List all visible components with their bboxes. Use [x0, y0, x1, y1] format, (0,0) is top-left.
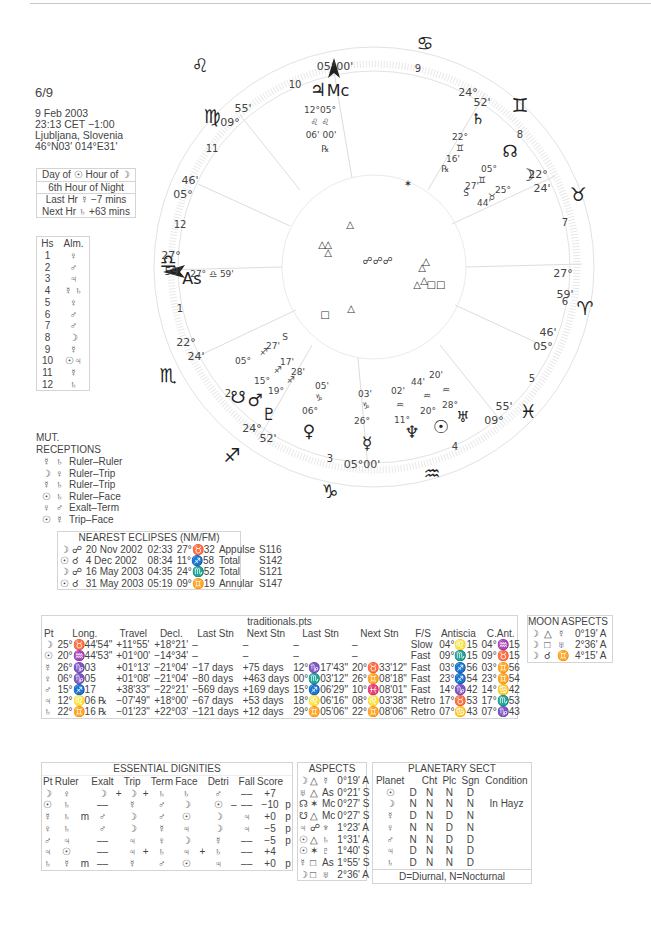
aspect-cell: ☌ — [542, 650, 555, 661]
table-row: 10☉♃ — [37, 355, 89, 367]
cusp-degree-label: 24' — [533, 182, 550, 195]
aspect-cell: 1°55' S — [336, 857, 370, 869]
aspect-glyph-icon: △ — [346, 219, 354, 230]
planet-labels: 12°05°♌ ♌06' 00'℞22°♊16'℞05°♊27'S25°♉44'… — [190, 105, 511, 426]
essential-dignities-box: ESSENTIAL DIGNITIES PtRulerExaltTripTerm… — [41, 762, 293, 871]
trad-cell: Fast — [409, 662, 437, 673]
zodiac-sign-icon: ♋ — [416, 32, 433, 54]
sect-cell: D — [440, 822, 459, 834]
table-row: ♅△As0°21' S — [298, 787, 370, 799]
trad-cell: −14°34' — [152, 650, 190, 661]
reception-row: ☿♄Ruler–Trip — [36, 479, 124, 491]
house-cell: 6 — [37, 309, 58, 321]
col-header: Last Stn — [190, 628, 240, 639]
aspect-cell: Mc — [321, 798, 336, 810]
aspect-cell: 0°19' A — [336, 775, 370, 787]
planet-position-label: 11° — [394, 415, 410, 425]
planet-position-label: 05° — [481, 164, 497, 174]
planet-position-label: 03' — [358, 389, 372, 399]
col-header: Antiscia — [437, 628, 479, 639]
col-header — [80, 776, 90, 788]
aspect-cell: ♊ — [555, 650, 573, 661]
dignity-cell: +0 — [256, 858, 284, 870]
planetary-sect-box: PLANETARY SECT PlanetChtPlcSgnCondition … — [372, 762, 532, 884]
eclipse-cell: ☽ ☍ — [58, 544, 84, 555]
planet-position-label: ♑ — [315, 393, 323, 403]
aspect-cell: ☉ — [298, 834, 309, 846]
reception-row: ☽♀Ruler–Trip — [36, 468, 124, 480]
house-cell: ☽ — [58, 332, 89, 344]
dignity-cell — [199, 788, 207, 800]
planet-position-label: ♒ — [423, 391, 431, 401]
trad-cell: – — [190, 639, 240, 650]
dignity-cell — [230, 835, 238, 847]
trad-cell: 20°♒44'53" — [55, 650, 114, 661]
trad-cell: 17°♉53 — [437, 695, 479, 706]
sect-cell: ♂ — [373, 834, 407, 846]
trad-cell: 00°♏03'12" — [291, 673, 350, 684]
planet-position-label: ℞ — [321, 144, 329, 154]
trad-cell: +12 days — [241, 706, 291, 717]
trad-cell: +75 days — [241, 662, 291, 673]
col-header: Decl. — [152, 628, 190, 639]
aspect-cell: ☿ — [298, 857, 309, 869]
eclipse-cell: 24°♏52 — [175, 566, 217, 577]
sect-cell — [482, 845, 531, 857]
planet-position-label: 06° — [302, 406, 318, 416]
mutual-receptions-box: MUT. RECEPTIONS ☿♄Ruler–Ruler☽♀Ruler–Tri… — [36, 432, 124, 525]
eclipse-cell: S147 — [257, 578, 284, 589]
dignity-cell: ♃ — [207, 858, 230, 870]
trad-cell: +169 days — [241, 684, 291, 695]
planet-position-label: 20° — [420, 406, 436, 416]
eclipse-cell: 11°♐58 — [175, 555, 217, 566]
reception-row: ☉☿Trip–Face — [36, 514, 124, 526]
dignity-cell: ♃ — [238, 811, 256, 823]
aspect-cell: ☽ — [298, 775, 309, 787]
planet-position-label: ℞ — [441, 164, 449, 174]
sect-cell: N — [440, 857, 459, 869]
zodiac-sign-icon: ♊ — [511, 94, 528, 116]
dignity-cell: ♃ — [174, 823, 198, 835]
table-row: ♀♄♂☽☿♃☽♃−5p — [42, 823, 292, 835]
sect-cell: D — [407, 810, 419, 822]
dignity-cell — [80, 823, 90, 835]
aspect-glyph-icon: ☍☍☍ — [363, 255, 393, 266]
dignity-cell: p — [284, 835, 292, 847]
aspect-cell: 0°19' A — [573, 628, 612, 639]
planet-position-label: 27° ♎ 59' — [190, 269, 234, 279]
dignity-cell: ♄ — [150, 788, 174, 800]
dignity-cell: ♃ — [54, 835, 80, 847]
aspect-cell: △ — [309, 787, 321, 799]
trad-cell: ☽ — [42, 639, 55, 650]
planet-position-label: 44' — [477, 198, 491, 208]
trad-cell: 04°♌15 — [437, 639, 479, 650]
sect-cell: ♃ — [373, 845, 407, 857]
dignity-cell: ♄ — [174, 788, 198, 800]
trad-cell: ♀ — [42, 673, 55, 684]
trad-cell: 12°♌06 ℞ — [55, 695, 114, 706]
sect-cell: N — [419, 798, 440, 810]
dignity-cell: ☉ — [54, 846, 80, 858]
col-header — [230, 776, 238, 788]
sect-cell: D — [407, 845, 419, 857]
table-row: ☉20°♒44'53"+01°00'−14°34'––––Fast09°♏150… — [42, 650, 522, 661]
trad-cell: −22°21' — [152, 684, 190, 695]
planet-glyph-icon: ♀ — [53, 468, 66, 480]
sect-cell: D — [459, 834, 482, 846]
eclipse-cell: 4 Dec 2002 — [84, 555, 146, 566]
planet-position-label: 25° — [495, 185, 511, 195]
trad-cell: 14°♑42 — [437, 684, 479, 695]
dignity-cell: – — [230, 799, 238, 811]
trad-cell: Slow — [409, 639, 437, 650]
house-cell: 2 — [37, 262, 58, 274]
dignity-cell — [115, 835, 123, 847]
eclipses-box: NEAREST ECLIPSES (NM/FM) ☽ ☍20 Nov 20020… — [57, 531, 241, 590]
house-cell: 12 — [37, 379, 58, 391]
section-title: traditionals.pts — [42, 616, 517, 628]
col-header — [284, 776, 292, 788]
trad-cell: 06°♑05 — [55, 673, 114, 684]
aspect-cell: △ — [542, 628, 555, 639]
table-row: ☽♀☽+☽+♄♄♂––+7 — [42, 788, 292, 800]
dignity-cell: ♃ — [123, 835, 142, 847]
dignity-cell: ♄ — [207, 846, 230, 858]
